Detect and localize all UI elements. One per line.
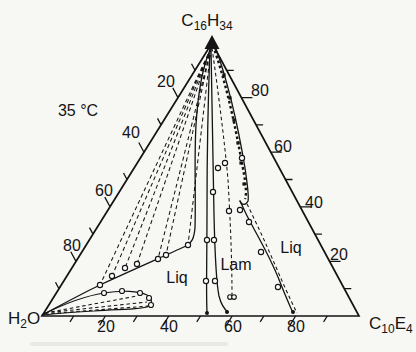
tie-lines-fan: [100, 48, 211, 285]
lam-channel-left-curve: [207, 48, 210, 312]
left-vertex-label-h2o: H2O: [8, 309, 40, 331]
axis-tick-label: 40: [122, 124, 140, 141]
axis-tick-label: 60: [274, 138, 292, 155]
ternary-phase-diagram: 20 40 60 80 80 60 40 20 20 40 60 80 C16H…: [0, 0, 416, 352]
axis-tick-label: 80: [287, 318, 305, 335]
bottom-axis-tick-labels: 20 40 60 80: [97, 318, 305, 335]
top-vertex-label-c16h34: C16H34: [181, 11, 233, 33]
region-label-lam: Lam: [220, 256, 251, 273]
temperature-label: 35 °C: [58, 102, 98, 119]
right-axis-tick-labels: 80 60 40 20: [251, 82, 348, 263]
axis-tick-label: 40: [305, 194, 323, 211]
axis-tick-label: 80: [63, 237, 81, 254]
filled-markers: [205, 35, 296, 315]
right-vertex-label-c10e4: C10E4: [369, 314, 413, 336]
left-axis-tick-labels: 20 40 60 80: [63, 73, 175, 254]
right-boundary-dashed-curve: [247, 204, 297, 313]
apex-triangle-marker: [205, 35, 220, 49]
axis-tick-label: 60: [95, 182, 113, 199]
axis-tick-label: 20: [157, 73, 175, 90]
right-lobe-inner-dotted-curve: [213, 46, 246, 199]
axis-tick-label: 60: [224, 318, 242, 335]
axis-tick-label: 20: [330, 246, 348, 263]
region-label-liq-right: Liq: [280, 239, 301, 256]
axis-tick-label: 20: [97, 318, 115, 335]
axis-tick-label: 40: [160, 318, 178, 335]
data-point-markers: [97, 155, 280, 307]
scanned-figure-page: 20 40 60 80 80 60 40 20 20 40 60 80 C16H…: [0, 0, 416, 352]
scan-artifact: [30, 342, 228, 346]
left-axis-ticks: [56, 64, 196, 289]
axis-tick-label: 80: [251, 82, 269, 99]
region-label-liq-left: Liq: [166, 269, 187, 286]
